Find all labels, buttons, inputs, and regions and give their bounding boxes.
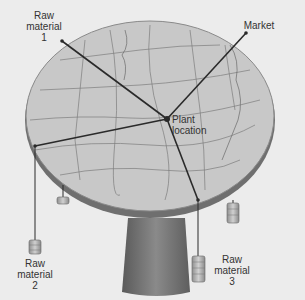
label-line: material <box>24 21 64 32</box>
plant-location-knot <box>164 116 170 122</box>
tabletop-map <box>26 21 274 211</box>
label-line: Raw <box>15 258 55 269</box>
weight-market <box>227 203 239 223</box>
pedestal <box>122 218 190 296</box>
weight-raw-material-3 <box>192 256 205 282</box>
label-line: location <box>172 125 212 136</box>
label-raw-material-3: Raw material 3 <box>210 254 254 287</box>
label-line: Market <box>234 20 284 31</box>
weight-small-left <box>57 197 69 204</box>
label-line: 1 <box>24 32 64 43</box>
label-line: 3 <box>210 276 254 287</box>
label-line: Plant <box>172 114 212 125</box>
diagram-canvas: Raw material 1 Market Plant location Raw… <box>0 0 305 300</box>
label-raw-material-2: Raw material 2 <box>15 258 55 291</box>
label-line: Raw <box>210 254 254 265</box>
label-raw-material-1: Raw material 1 <box>24 10 64 43</box>
label-line: material <box>15 269 55 280</box>
varignon-frame-illustration <box>0 0 305 300</box>
label-line: Raw <box>24 10 64 21</box>
pulley-market <box>244 31 248 35</box>
label-line: 2 <box>15 280 55 291</box>
label-line: material <box>210 265 254 276</box>
label-plant-location: Plant location <box>172 114 212 136</box>
weight-raw-material-2 <box>29 240 41 254</box>
label-market: Market <box>234 20 284 31</box>
